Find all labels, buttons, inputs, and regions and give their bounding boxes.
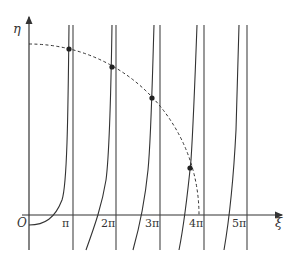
tick-label-pi: π	[62, 217, 69, 230]
intersection-points	[66, 46, 192, 170]
tick-label-5pi: 5π	[232, 217, 246, 230]
curve-branches	[29, 25, 239, 250]
x-axis-label: ξ	[275, 215, 283, 230]
tick-label-2pi: 2π	[101, 217, 115, 230]
circle-arc	[29, 44, 199, 215]
tick-label-4pi: 4π	[189, 217, 203, 230]
origin-label: O	[17, 216, 27, 230]
tick-label-3pi: 3π	[145, 217, 159, 230]
y-axis-label: η	[13, 21, 21, 36]
diagram: η ξ O π 2π 3π 4π 5π	[0, 0, 298, 262]
